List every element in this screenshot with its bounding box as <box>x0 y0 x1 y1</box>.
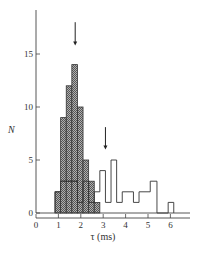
hatched-bar <box>55 192 61 213</box>
hatched-bar <box>72 65 78 213</box>
x-tick-label: 2 <box>79 220 84 230</box>
x-tick-label: 4 <box>123 220 128 230</box>
hatched-bar <box>61 118 67 213</box>
hatched-bar <box>83 160 89 213</box>
y-tick-label: 5 <box>29 155 34 165</box>
y-tick-label: 10 <box>24 102 34 112</box>
hatched-bar <box>89 181 95 213</box>
hatched-bar <box>66 86 72 213</box>
x-tick-label: 0 <box>34 220 39 230</box>
x-tick-label: 3 <box>101 220 106 230</box>
x-tick-label: 6 <box>168 220 173 230</box>
y-tick-label: 0 <box>29 208 34 218</box>
x-tick-label: 1 <box>56 220 61 230</box>
x-tick-label: 5 <box>146 220 151 230</box>
hatched-bar <box>94 202 100 213</box>
histogram-chart: 0510150123456 τ (ms) N <box>0 0 206 256</box>
axes <box>36 10 190 218</box>
x-axis-label: τ (ms) <box>91 231 116 243</box>
y-axis-label: N <box>7 124 16 135</box>
hatched-bar <box>77 107 83 213</box>
y-tick-label: 15 <box>24 49 34 59</box>
